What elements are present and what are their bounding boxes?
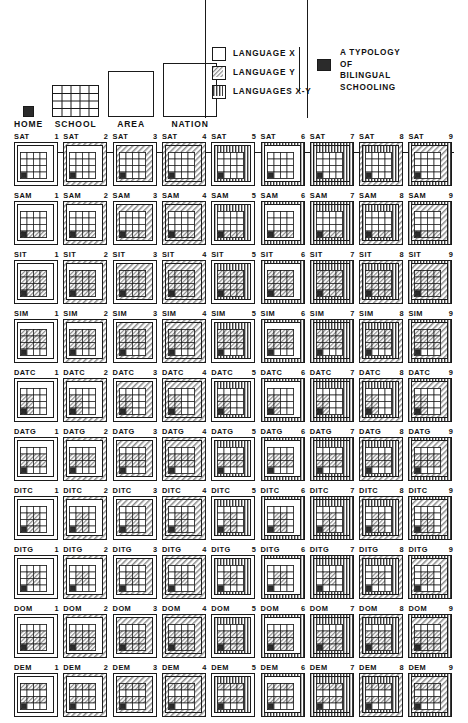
matrix-cell[interactable]: SAM8 (358, 190, 404, 249)
matrix-cell[interactable]: DITC5 (210, 485, 256, 544)
matrix-cell[interactable]: DATG3 (112, 426, 158, 485)
cell-type-label: SIT (310, 249, 323, 260)
matrix-cell[interactable]: DATG4 (161, 426, 207, 485)
matrix-cell[interactable]: DATC9 (407, 367, 453, 426)
matrix-cell[interactable]: SAM9 (407, 190, 453, 249)
matrix-cell[interactable]: SAM2 (62, 190, 108, 249)
matrix-cell[interactable]: DOM5 (210, 603, 256, 662)
matrix-cell[interactable]: DEM4 (161, 662, 207, 721)
matrix-cell[interactable]: SIM2 (62, 308, 108, 367)
matrix-cell[interactable]: SIT7 (309, 249, 355, 308)
matrix-cell[interactable]: SIT5 (210, 249, 256, 308)
matrix-cell[interactable]: DATC1 (13, 367, 59, 426)
matrix-cell[interactable]: DOM7 (309, 603, 355, 662)
matrix-cell[interactable]: DITC8 (358, 485, 404, 544)
matrix-cell[interactable]: DITG6 (260, 544, 306, 603)
matrix-cell[interactable]: DEM9 (407, 662, 453, 721)
matrix-cell[interactable]: SIM5 (210, 308, 256, 367)
matrix-cell[interactable]: SIM4 (161, 308, 207, 367)
matrix-cell[interactable]: SIT4 (161, 249, 207, 308)
matrix-cell[interactable]: DATC7 (309, 367, 355, 426)
cell-type-label: DATC (211, 367, 233, 378)
matrix-cell[interactable]: DOM8 (358, 603, 404, 662)
matrix-cell[interactable]: DOM2 (62, 603, 108, 662)
cell-type-label: DATG (162, 426, 184, 437)
matrix-cell[interactable]: SIM9 (407, 308, 453, 367)
matrix-cell[interactable]: DATG1 (13, 426, 59, 485)
matrix-cell[interactable]: DITG9 (407, 544, 453, 603)
matrix-cell[interactable]: DEM7 (309, 662, 355, 721)
matrix-cell[interactable]: SAM4 (161, 190, 207, 249)
matrix-cell[interactable]: DATG2 (62, 426, 108, 485)
matrix-cell[interactable]: DITG8 (358, 544, 404, 603)
matrix-cell[interactable]: DOM4 (161, 603, 207, 662)
matrix-cell[interactable]: SAT8 (358, 131, 404, 190)
matrix-cell[interactable]: SIT9 (407, 249, 453, 308)
matrix-cell[interactable]: DATG6 (260, 426, 306, 485)
matrix-cell[interactable]: SAT6 (260, 131, 306, 190)
matrix-cell[interactable]: DATC5 (210, 367, 256, 426)
cell-type-label: DOM (211, 603, 230, 614)
nested-context-diagram (310, 496, 354, 540)
matrix-cell[interactable]: SIT1 (13, 249, 59, 308)
matrix-cell[interactable]: DITC2 (62, 485, 108, 544)
matrix-cell[interactable]: DATC3 (112, 367, 158, 426)
matrix-cell[interactable]: SAT5 (210, 131, 256, 190)
nested-context-diagram (162, 142, 206, 186)
matrix-cell[interactable]: DATG5 (210, 426, 256, 485)
cell-number: 3 (153, 190, 158, 201)
matrix-cell[interactable]: DATG7 (309, 426, 355, 485)
matrix-cell[interactable]: SAT2 (62, 131, 108, 190)
matrix-cell[interactable]: SIM3 (112, 308, 158, 367)
matrix-cell[interactable]: DITC9 (407, 485, 453, 544)
matrix-cell[interactable]: DITG5 (210, 544, 256, 603)
matrix-cell[interactable]: DATC2 (62, 367, 108, 426)
matrix-cell[interactable]: SAT9 (407, 131, 453, 190)
matrix-cell[interactable]: DITC4 (161, 485, 207, 544)
matrix-cell[interactable]: SAT4 (161, 131, 207, 190)
matrix-cell[interactable]: SIM1 (13, 308, 59, 367)
matrix-cell[interactable]: DEM5 (210, 662, 256, 721)
matrix-cell[interactable]: DATC6 (260, 367, 306, 426)
matrix-cell[interactable]: SAM6 (260, 190, 306, 249)
matrix-cell[interactable]: DITG1 (13, 544, 59, 603)
matrix-cell[interactable]: SIT3 (112, 249, 158, 308)
cell-header: DITG8 (358, 544, 404, 555)
matrix-cell[interactable]: DEM2 (62, 662, 108, 721)
matrix-cell[interactable]: DITG4 (161, 544, 207, 603)
matrix-cell[interactable]: DEM3 (112, 662, 158, 721)
matrix-cell[interactable]: DITG3 (112, 544, 158, 603)
matrix-cell[interactable]: DATG9 (407, 426, 453, 485)
matrix-cell[interactable]: SAM3 (112, 190, 158, 249)
matrix-cell[interactable]: SAT1 (13, 131, 59, 190)
cell-header: DITG2 (62, 544, 108, 555)
matrix-cell[interactable]: SIT2 (62, 249, 108, 308)
matrix-cell[interactable]: DOM3 (112, 603, 158, 662)
matrix-cell[interactable]: SAM7 (309, 190, 355, 249)
matrix-cell[interactable]: DOM1 (13, 603, 59, 662)
matrix-cell[interactable]: DEM8 (358, 662, 404, 721)
matrix-cell[interactable]: SAT7 (309, 131, 355, 190)
matrix-cell[interactable]: SIM6 (260, 308, 306, 367)
matrix-cell[interactable]: DITC3 (112, 485, 158, 544)
matrix-cell[interactable]: DATG8 (358, 426, 404, 485)
matrix-cell[interactable]: DEM1 (13, 662, 59, 721)
matrix-cell[interactable]: SIT8 (358, 249, 404, 308)
matrix-cell[interactable]: DITC1 (13, 485, 59, 544)
matrix-cell[interactable]: DITG7 (309, 544, 355, 603)
matrix-cell[interactable]: SIT6 (260, 249, 306, 308)
nested-context-diagram (310, 555, 354, 599)
matrix-cell[interactable]: DOM9 (407, 603, 453, 662)
matrix-cell[interactable]: DATC4 (161, 367, 207, 426)
matrix-cell[interactable]: SIM7 (309, 308, 355, 367)
matrix-cell[interactable]: DITG2 (62, 544, 108, 603)
matrix-cell[interactable]: SIM8 (358, 308, 404, 367)
matrix-cell[interactable]: SAM1 (13, 190, 59, 249)
matrix-cell[interactable]: DOM6 (260, 603, 306, 662)
matrix-cell[interactable]: DEM6 (260, 662, 306, 721)
matrix-cell[interactable]: SAM5 (210, 190, 256, 249)
matrix-cell[interactable]: DATC8 (358, 367, 404, 426)
matrix-cell[interactable]: DITC7 (309, 485, 355, 544)
matrix-cell[interactable]: DITC6 (260, 485, 306, 544)
matrix-cell[interactable]: SAT3 (112, 131, 158, 190)
